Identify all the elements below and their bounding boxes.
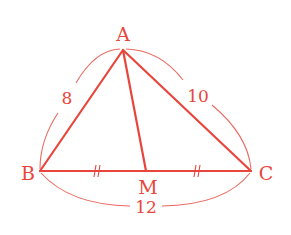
vertex-label-b: B [21, 162, 35, 184]
arc-ac-upper [126, 49, 183, 80]
segment-ab [40, 50, 123, 171]
arc-bc-left [41, 173, 130, 206]
length-label-bc: 12 [135, 197, 157, 217]
length-label-ac: 10 [187, 86, 209, 106]
arc-ab-lower [40, 113, 58, 169]
midpoint-label-m: M [138, 176, 157, 198]
arc-bc-right [162, 173, 250, 206]
vertex-label-a: A [115, 23, 130, 45]
length-label-ab: 8 [62, 88, 73, 108]
triangle-diagram: A B C M 8 10 12 [0, 0, 291, 235]
vertex-label-c: C [259, 162, 274, 184]
arc-ab-upper [76, 49, 120, 83]
arc-ac-lower [212, 105, 251, 169]
